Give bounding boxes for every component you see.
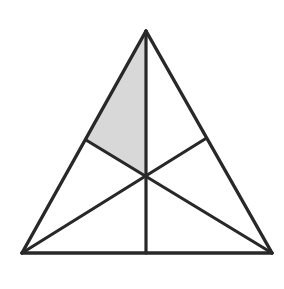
- figure-canvas: [0, 0, 284, 289]
- triangle-medians-diagram: [0, 0, 284, 289]
